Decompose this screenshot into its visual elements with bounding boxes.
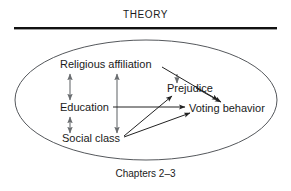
node-label-voting-behavior: Voting behavior [189,102,265,114]
edge-social-class-prejudice [124,96,172,136]
diagram-canvas: THEORY Religious affiliation Prejudice E… [0,0,291,191]
figure-title: THEORY [123,9,168,20]
theory-diagram-figure: THEORY Religious affiliation Prejudice E… [0,0,291,191]
node-label-prejudice: Prejudice [167,82,213,94]
node-label-religious-affiliation: Religious affiliation [60,58,152,70]
node-label-social-class: Social class [62,132,121,144]
node-label-education: Education [60,101,109,113]
figure-caption: Chapters 2–3 [115,168,175,179]
edge-social-class-voting [124,113,190,137]
title-divider [14,27,277,29]
